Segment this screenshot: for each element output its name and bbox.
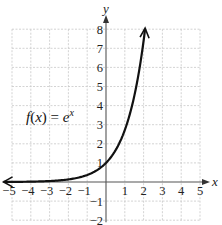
x-tick-label: 1 (122, 184, 128, 198)
y-tick-label: −1 (90, 195, 103, 209)
y-tick-label: 6 (97, 61, 103, 75)
x-axis-arrow-icon (202, 179, 210, 185)
x-tick-label: 2 (140, 184, 146, 198)
y-tick-label: 2 (97, 137, 103, 151)
function-label: f(x) = ex (26, 107, 74, 126)
x-tick-label: −4 (21, 184, 35, 198)
y-tick-label: 8 (97, 23, 103, 37)
y-tick-label: 4 (97, 99, 104, 113)
x-tick-label: −2 (59, 184, 72, 198)
function-curve (4, 29, 146, 182)
y-axis-label: y (101, 1, 109, 16)
y-tick-label: 7 (97, 42, 103, 56)
x-tick-label: 5 (197, 184, 203, 198)
x-axis-label: x (211, 174, 218, 189)
exponential-function-graph: −5−4−3−2−11234587654321−1−2 x y f(x) = e… (0, 0, 222, 225)
y-tick-label: 5 (97, 80, 103, 94)
y-tick-label: 3 (97, 118, 103, 132)
x-tick-label: 4 (178, 184, 185, 198)
y-tick-label: −2 (90, 214, 103, 225)
y-axis-arrow-icon (103, 15, 109, 23)
x-tick-label: 3 (159, 184, 165, 198)
x-tick-label: −5 (2, 184, 15, 198)
x-tick-label: −3 (40, 184, 53, 198)
